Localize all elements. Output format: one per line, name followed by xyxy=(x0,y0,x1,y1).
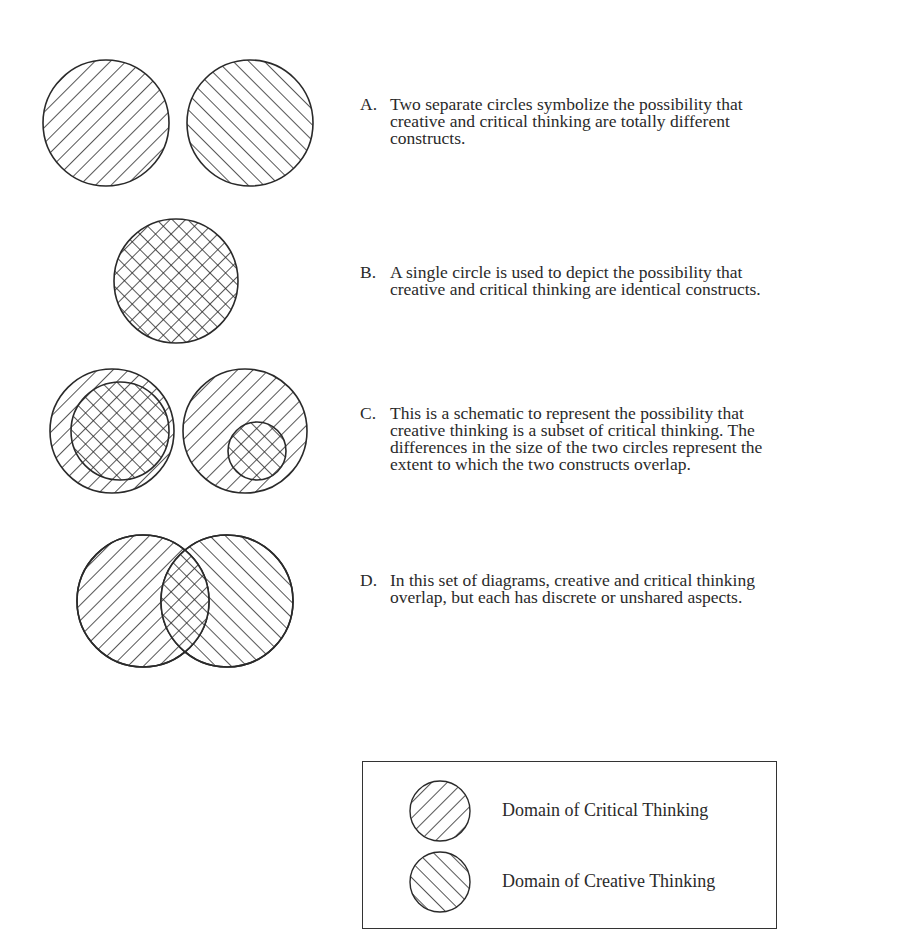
caption-line: constructs. xyxy=(390,130,465,147)
panel-a-circles xyxy=(43,60,313,186)
panel-b-circle xyxy=(114,219,238,343)
caption-line: extent to which the two constructs overl… xyxy=(390,456,691,473)
caption-letter: B. xyxy=(360,264,376,281)
legend-label-critical: Domain of Critical Thinking xyxy=(502,800,708,821)
caption-letter: C. xyxy=(360,405,376,422)
legend-label-creative: Domain of Creative Thinking xyxy=(502,871,715,892)
caption-line: creative and critical thinking are ident… xyxy=(390,281,761,298)
caption-letter: D. xyxy=(360,572,377,589)
critical-circle xyxy=(43,60,169,186)
caption-line: overlap, but each has discrete or unshar… xyxy=(390,589,742,606)
identical-circle xyxy=(114,219,238,343)
legend-box xyxy=(362,761,777,929)
caption-letter: A. xyxy=(360,96,377,113)
creative-circle xyxy=(187,60,313,186)
panel-d-circles xyxy=(77,535,293,667)
panel-c-circles xyxy=(50,369,307,493)
